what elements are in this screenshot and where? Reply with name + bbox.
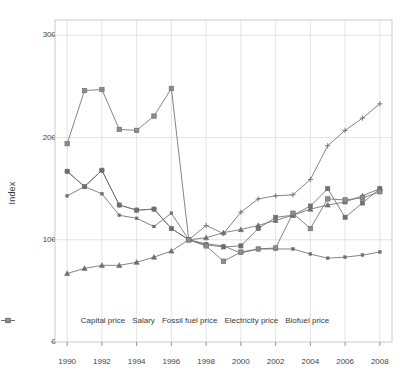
data-point-marker — [256, 226, 260, 230]
data-point-marker — [326, 187, 330, 191]
data-point-marker — [118, 214, 121, 217]
data-point-marker — [361, 254, 364, 257]
data-point-marker — [360, 196, 364, 200]
data-point-marker — [221, 259, 225, 263]
data-point-marker — [344, 256, 347, 259]
data-point-marker — [308, 204, 312, 208]
data-point-marker — [256, 247, 260, 251]
plot-area — [0, 0, 410, 386]
data-point-marker — [378, 251, 381, 254]
data-point-marker — [6, 318, 10, 322]
data-point-marker — [82, 88, 86, 92]
data-point-marker — [343, 198, 347, 202]
data-point-marker — [134, 128, 138, 132]
legend-entry[interactable]: Fossil fuel price — [162, 316, 218, 325]
filled-square-marker — [0, 316, 16, 325]
data-point-marker — [309, 253, 312, 256]
legend-label: Fossil fuel price — [162, 316, 218, 325]
legend-entry[interactable]: Biofuel price — [285, 316, 329, 325]
legend-label: Electricity price — [224, 316, 278, 325]
data-point-marker — [117, 127, 121, 131]
data-point-marker — [326, 257, 329, 260]
data-point-marker — [153, 225, 156, 228]
data-point-marker — [273, 246, 277, 250]
data-point-marker — [291, 211, 295, 215]
data-point-marker — [101, 192, 104, 195]
data-point-marker — [135, 217, 138, 220]
data-point-marker — [169, 86, 173, 90]
data-point-marker — [65, 141, 69, 145]
chart-legend: Capital priceSalaryFossil fuel priceElec… — [0, 316, 410, 325]
data-point-marker — [221, 245, 225, 249]
data-point-marker — [170, 212, 173, 215]
data-point-marker — [308, 226, 312, 230]
legend-label: Salary — [132, 316, 155, 325]
legend-label: Capital price — [81, 316, 125, 325]
line-chart: Index 0100200300 19901992199419961998200… — [0, 0, 410, 386]
data-point-marker — [292, 248, 295, 251]
data-point-marker — [274, 215, 278, 219]
data-point-marker — [100, 87, 104, 91]
data-point-marker — [187, 238, 191, 242]
data-point-marker — [239, 244, 243, 248]
legend-entry[interactable]: Capital price — [81, 316, 125, 325]
data-point-marker — [204, 244, 208, 248]
data-point-marker — [343, 215, 347, 219]
legend-entry[interactable]: Salary — [132, 316, 155, 325]
data-point-marker — [378, 190, 382, 194]
legend-entry[interactable]: Electricity price — [224, 316, 278, 325]
data-point-marker — [326, 197, 330, 201]
data-point-marker — [239, 250, 243, 254]
data-point-marker — [152, 114, 156, 118]
legend-label: Biofuel price — [285, 316, 329, 325]
data-point-marker — [360, 201, 364, 205]
plot-frame — [55, 20, 392, 342]
data-point-marker — [66, 194, 69, 197]
